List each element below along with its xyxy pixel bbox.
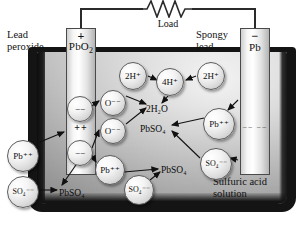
wire-top-left bbox=[80, 8, 143, 10]
caption-spongy-lead-line1: Spongy bbox=[196, 29, 240, 41]
caption-sulfuric-line1: Sulfuric acid bbox=[213, 176, 289, 188]
ion-neg-top: −− bbox=[67, 96, 93, 122]
species-pbso4-2: PbSO₄ bbox=[59, 188, 85, 198]
wire-left-vertical bbox=[80, 8, 82, 30]
ion-so4-left: SO₄⁻⁻ bbox=[7, 176, 39, 208]
species-pbso4-3: PbSO₄ bbox=[161, 165, 187, 175]
caption-lead-peroxide-line2: peroxide bbox=[7, 41, 65, 53]
caption-sulfuric-line2: solution bbox=[213, 188, 289, 200]
ion-h2-left: 2H⁺ bbox=[119, 62, 147, 90]
ion-pb-right: Pb⁺⁺ bbox=[203, 108, 235, 140]
battery-diagram: Load + PbO2 ++ ++ − Pb −− −− Lead peroxi… bbox=[0, 0, 304, 228]
ion-o-top: O⁻⁻ bbox=[100, 90, 126, 116]
caption-lead-peroxide-line1: Lead bbox=[7, 29, 65, 41]
electrode-left-label: PbO2 bbox=[61, 40, 101, 55]
caption-spongy-lead-line2: lead bbox=[196, 41, 240, 53]
wire-top-right bbox=[192, 8, 255, 10]
ion-so4-mid: SO₄⁻⁻ bbox=[124, 175, 154, 205]
case-wall-left bbox=[37, 52, 45, 204]
load-label: Load bbox=[141, 18, 195, 29]
caption-lead-peroxide: Lead peroxide bbox=[7, 29, 65, 52]
ion-o-bottom: O⁻⁻ bbox=[100, 118, 126, 144]
electrode-right-label: Pb bbox=[240, 41, 270, 53]
plate-charge-row-2: ++ bbox=[66, 123, 96, 132]
ion-h2-right: 2H⁺ bbox=[197, 62, 225, 90]
ion-so4-right: SO₄⁻⁻ bbox=[200, 148, 232, 180]
species-water: 2H₂O bbox=[146, 104, 168, 114]
wire-right-vertical bbox=[254, 8, 256, 30]
electrode-left-formula: PbO2 bbox=[69, 40, 93, 52]
ion-neg-bottom: −− bbox=[67, 140, 93, 166]
species-pbso4-1: PbSO₄ bbox=[140, 124, 166, 134]
ion-pb-left: Pb⁺⁺ bbox=[7, 140, 39, 172]
load-resistor-icon bbox=[141, 0, 195, 18]
electrode-right-charges: −− −− bbox=[240, 124, 270, 132]
ion-pb-mid: Pb⁺⁺ bbox=[95, 155, 125, 185]
ion-h4-center: 4H⁺ bbox=[156, 68, 184, 96]
caption-spongy-lead: Spongy lead bbox=[196, 29, 240, 52]
caption-sulfuric-acid: Sulfuric acid solution bbox=[213, 176, 289, 200]
